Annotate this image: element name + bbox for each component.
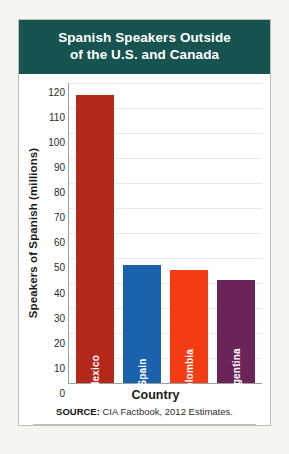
bar-label-mexico: Mexico xyxy=(90,355,101,390)
bar-colombia[interactable]: Colombia xyxy=(170,270,208,383)
y-axis-title: Speakers of Spanish (millions) xyxy=(27,148,39,318)
bar-spain[interactable]: Spain xyxy=(123,265,161,383)
source-note: SOURCE: CIA Factbook, 2012 Estimates. xyxy=(19,404,270,417)
y-axis-title-container: Speakers of Spanish (millions) xyxy=(23,83,42,384)
chart-title-banner: Spanish Speakers Outside of the U.S. and… xyxy=(19,20,270,74)
y-tick-70: 70 xyxy=(54,212,65,223)
chart-title-line-1: Spanish Speakers Outside xyxy=(27,29,262,46)
y-tick-30: 30 xyxy=(54,312,65,323)
y-tick-120: 120 xyxy=(48,86,65,97)
y-axis-tick-labels: 1201101009080706050403020100 xyxy=(42,83,68,384)
footer-divider xyxy=(33,424,256,425)
bar-argentina[interactable]: Argentina xyxy=(217,280,255,383)
y-tick-50: 50 xyxy=(54,262,65,273)
source-text: CIA Factbook, 2012 Estimates. xyxy=(103,406,233,417)
bar-label-colombia: Colombia xyxy=(183,349,194,396)
chart-card: Spanish Speakers Outside of the U.S. and… xyxy=(18,19,271,426)
y-tick-110: 110 xyxy=(49,111,65,122)
y-tick-60: 60 xyxy=(54,237,65,248)
bar-label-spain: Spain xyxy=(137,358,148,386)
y-tick-100: 100 xyxy=(48,136,65,147)
y-tick-20: 20 xyxy=(54,337,65,348)
chart-axes: MexicoSpainColombiaArgentina xyxy=(68,83,262,384)
y-tick-40: 40 xyxy=(54,287,65,298)
y-tick-90: 90 xyxy=(54,161,65,172)
y-tick-10: 10 xyxy=(54,362,65,373)
bar-label-argentina: Argentina xyxy=(230,348,241,396)
plot-region: Speakers of Spanish (millions) 120110100… xyxy=(19,74,270,384)
y-tick-0: 0 xyxy=(59,388,65,399)
source-label: SOURCE: xyxy=(56,406,100,417)
bar-mexico[interactable]: Mexico xyxy=(76,95,114,383)
bar-series: MexicoSpainColombiaArgentina xyxy=(69,83,262,383)
chart-title-line-2: of the U.S. and Canada xyxy=(27,46,262,63)
y-tick-80: 80 xyxy=(54,187,65,198)
